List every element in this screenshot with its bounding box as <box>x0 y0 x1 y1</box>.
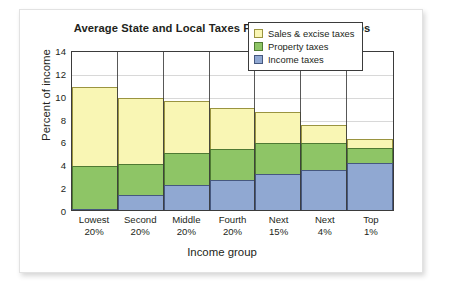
y-axis-title: Percent of income <box>40 15 52 175</box>
x-axis-tick-line: Next <box>302 214 348 226</box>
bar-segment-property[interactable] <box>301 143 347 170</box>
bar-segment-sales[interactable] <box>255 112 301 144</box>
x-axis-tick-4: Fourth20% <box>209 214 255 238</box>
bar-segment-income[interactable] <box>301 170 347 211</box>
bar-segment-income[interactable] <box>347 163 393 211</box>
bar-segment-property[interactable] <box>347 148 393 164</box>
x-axis-tick-5: Next15% <box>256 214 302 238</box>
x-axis-title: Income group <box>20 246 424 258</box>
legend: Sales & excise taxesProperty taxesIncome… <box>248 22 363 71</box>
bar-group-6[interactable] <box>301 52 347 210</box>
bar-segment-sales[interactable] <box>301 125 347 144</box>
legend-item-income[interactable]: Income taxes <box>254 53 355 66</box>
bar-group-2[interactable] <box>118 52 164 210</box>
plot-area <box>71 51 394 211</box>
bar-series-container <box>72 52 393 210</box>
x-axis-tick-line: Second <box>117 214 163 226</box>
y-axis-tick-14: 14 <box>55 46 66 57</box>
x-axis-tick-line: Lowest <box>71 214 117 226</box>
x-axis-tick-line: Middle <box>163 214 209 226</box>
x-axis-tick-line: 4% <box>302 226 348 238</box>
bar-segment-property[interactable] <box>118 164 164 196</box>
x-axis-tick-line: 20% <box>163 226 209 238</box>
x-axis-tick-2: Second20% <box>117 214 163 238</box>
x-axis-tick-3: Middle20% <box>163 214 209 238</box>
bar-segment-income[interactable] <box>164 185 210 211</box>
bar-group-7[interactable] <box>347 52 393 210</box>
bar-segment-property[interactable] <box>210 149 256 181</box>
bar-segment-income[interactable] <box>255 174 301 211</box>
chart-card: Average State and Local Taxes Paid by In… <box>19 9 423 273</box>
bar-segment-income[interactable] <box>210 180 256 211</box>
x-axis-tick-line: Top <box>348 214 394 226</box>
bar-segment-property[interactable] <box>164 153 210 186</box>
legend-swatch-income-icon <box>254 55 263 64</box>
x-axis-tick-line: Fourth <box>209 214 255 226</box>
bar-group-5[interactable] <box>255 52 301 210</box>
legend-label: Sales & excise taxes <box>268 28 355 39</box>
bar-group-3[interactable] <box>164 52 210 210</box>
legend-item-property[interactable]: Property taxes <box>254 40 355 53</box>
y-axis-tick-10: 10 <box>55 91 66 102</box>
x-axis-tick-7: Top1% <box>348 214 394 238</box>
page-title: Average State and Local Taxes Paid by In… <box>20 22 424 34</box>
legend-swatch-sales-icon <box>254 29 263 38</box>
bar-group-4[interactable] <box>210 52 256 210</box>
bar-segment-sales[interactable] <box>210 108 256 150</box>
legend-swatch-property-icon <box>254 42 263 51</box>
y-axis-tick-4: 4 <box>61 160 66 171</box>
x-axis-tick-line: 20% <box>209 226 255 238</box>
bar-segment-sales[interactable] <box>164 101 210 154</box>
x-axis-tick-6: Next4% <box>302 214 348 238</box>
bar-segment-sales[interactable] <box>118 98 164 165</box>
legend-item-sales[interactable]: Sales & excise taxes <box>254 27 355 40</box>
x-axis-tick-line: 20% <box>117 226 163 238</box>
bar-segment-income[interactable] <box>72 209 118 211</box>
y-axis-tick-6: 6 <box>61 137 66 148</box>
y-axis-tick-2: 2 <box>61 183 66 194</box>
y-axis-tick-12: 12 <box>55 68 66 79</box>
x-axis-tick-line: 15% <box>256 226 302 238</box>
bar-segment-property[interactable] <box>72 166 118 209</box>
bar-segment-income[interactable] <box>118 195 164 211</box>
legend-label: Income taxes <box>268 54 324 65</box>
bar-group-1[interactable] <box>72 52 118 210</box>
x-axis-tick-labels: Lowest20%Second20%Middle20%Fourth20%Next… <box>71 214 394 238</box>
bar-segment-sales[interactable] <box>72 87 118 167</box>
x-axis-tick-line: 1% <box>348 226 394 238</box>
legend-label: Property taxes <box>268 41 328 52</box>
y-axis-tick-8: 8 <box>61 114 66 125</box>
x-axis-tick-line: Next <box>256 214 302 226</box>
bar-segment-property[interactable] <box>255 143 301 175</box>
x-axis-tick-1: Lowest20% <box>71 214 117 238</box>
y-axis-tick-0: 0 <box>61 206 66 217</box>
x-axis-tick-line: 20% <box>71 226 117 238</box>
